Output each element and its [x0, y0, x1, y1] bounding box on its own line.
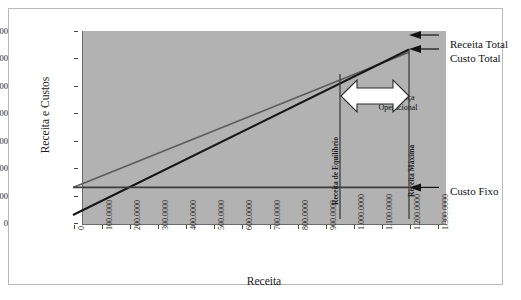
x-tick-label: 500.0000	[217, 200, 226, 230]
x-tick-label: 0	[77, 226, 86, 230]
x-tick-mark	[102, 225, 103, 229]
x-tick-label: 300.0000	[161, 200, 170, 230]
y-tick-mark	[74, 168, 78, 169]
x-tick-label: 100.0000	[105, 200, 114, 230]
x-tick-mark	[270, 225, 271, 229]
x-tick-label: 400.0000	[189, 200, 198, 230]
x-tick-mark	[214, 225, 215, 229]
x-tick-label: 800.0000	[301, 200, 310, 230]
y-tick-label: 0	[0, 218, 8, 228]
x-tick-mark	[326, 225, 327, 229]
marker-label-receita-maxima: Receita Máxima	[407, 145, 416, 197]
y-tick-mark	[74, 141, 78, 142]
y-tick-label: 1.400.000	[0, 26, 8, 36]
callout-receita-total: Receita Total	[450, 38, 508, 50]
x-tick-mark	[186, 225, 187, 229]
y-tick-label: 400.000	[0, 163, 8, 173]
seguranca-operacional-caption: Segurança Operacional	[360, 93, 436, 112]
y-tick-label: 200.000	[0, 191, 8, 201]
y-tick-label: 600.000	[0, 136, 8, 146]
x-tick-label: 1.100.0000	[385, 194, 394, 230]
chart-frame: Receita e Custos Receita 1.400.000 1.200…	[8, 8, 503, 285]
x-tick-label: 1.200.0000	[413, 194, 422, 230]
marker-label-receita-equilibrio: Receita de Equilíbrio	[331, 137, 340, 205]
callout-custo-total: Custo Total	[450, 52, 501, 64]
y-axis-line	[82, 31, 83, 225]
x-tick-label: 600.0000	[245, 200, 254, 230]
x-tick-label: 700.0000	[273, 200, 282, 230]
x-tick-mark	[158, 225, 159, 229]
x-tick-mark	[438, 225, 439, 229]
y-tick-mark	[74, 113, 78, 114]
y-tick-mark	[74, 223, 78, 224]
x-tick-mark	[130, 225, 131, 229]
y-tick-label: 800.000	[0, 108, 8, 118]
x-tick-mark	[74, 225, 75, 229]
seguranca-line-1: Segurança	[381, 93, 414, 102]
x-tick-mark	[298, 225, 299, 229]
y-tick-label: 1.200.000	[0, 53, 8, 63]
y-tick-mark	[74, 31, 78, 32]
y-tick-label: 1.000.000	[0, 81, 8, 91]
x-tick-label: 200.0000	[133, 200, 142, 230]
seguranca-line-2: Operacional	[378, 103, 417, 112]
y-axis-title: Receita e Custos	[39, 40, 51, 190]
x-tick-mark	[354, 225, 355, 229]
x-tick-mark	[382, 225, 383, 229]
y-tick-mark	[74, 58, 78, 59]
y-tick-mark	[74, 86, 78, 87]
y-tick-mark	[74, 196, 78, 197]
x-tick-label: 1.300.0000	[441, 194, 450, 230]
x-axis-title: Receita	[184, 275, 344, 287]
x-tick-mark	[410, 225, 411, 229]
x-tick-label: 1.000.0000	[357, 194, 366, 230]
x-tick-mark	[242, 225, 243, 229]
callout-custo-fixo: Custo Fixo	[450, 185, 499, 197]
